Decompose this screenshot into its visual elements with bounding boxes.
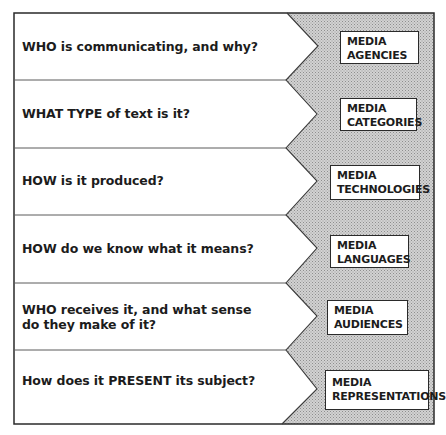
concept-label-line2: AGENCIES: [347, 49, 413, 63]
concept-label-line1: MEDIA: [347, 35, 413, 49]
concept-box-languages: MEDIA LANGUAGES: [330, 235, 409, 268]
concept-label-line1: MEDIA: [337, 169, 414, 183]
question-who-receives: WHO receives it, and what sense do they …: [22, 302, 262, 332]
concept-label-line2: CATEGORIES: [347, 116, 411, 130]
concept-box-audiences: MEDIA AUDIENCES: [327, 300, 408, 335]
question-who-communicating: WHO is communicating, and why?: [22, 39, 282, 54]
question-what-type: WHAT TYPE of text is it?: [22, 106, 282, 121]
question-how-present: How does it PRESENT its subject?: [22, 373, 282, 388]
concept-label-line2: LANGUAGES: [337, 253, 403, 267]
concept-box-representations: MEDIA REPRESENTATIONS: [325, 370, 429, 410]
concept-label-line2: REPRESENTATIONS: [332, 390, 423, 404]
question-how-know-meaning: HOW do we know what it means?: [22, 241, 282, 256]
concept-label-line2: AUDIENCES: [334, 318, 402, 332]
concept-box-agencies: MEDIA AGENCIES: [340, 31, 419, 64]
concept-box-technologies: MEDIA TECHNOLOGIES: [330, 165, 420, 200]
concept-label-line1: MEDIA: [337, 239, 403, 253]
shaded-concept-region: [282, 13, 434, 424]
question-how-produced: HOW is it produced?: [22, 173, 282, 188]
media-concepts-diagram: WHO is communicating, and why? WHAT TYPE…: [0, 0, 446, 435]
concept-label-line2: TECHNOLOGIES: [337, 183, 414, 197]
concept-label-line1: MEDIA: [332, 376, 423, 390]
concept-label-line1: MEDIA: [334, 304, 402, 318]
concept-box-categories: MEDIA CATEGORIES: [340, 98, 417, 131]
concept-label-line1: MEDIA: [347, 102, 411, 116]
